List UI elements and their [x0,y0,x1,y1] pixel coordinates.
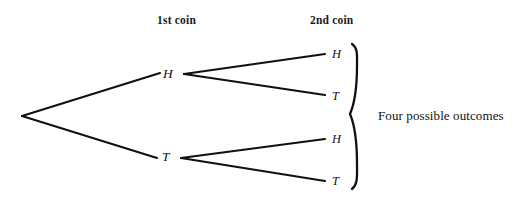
branch-h-to-hh [184,54,325,74]
branch-h-to-ht [184,74,325,95]
tree-diagram-svg [0,0,528,205]
leaf-label-outcome-3: H [332,132,341,147]
curly-brace-icon [350,44,357,189]
branch-root-to-h [22,73,160,116]
column-header-second-coin: 2nd coin [310,14,353,26]
leaf-label-outcome-4: T [332,174,339,189]
column-header-first-coin: 1st coin [157,14,196,26]
branch-t-to-th [181,139,325,158]
branch-t-to-tt [181,158,325,181]
node-label-first-coin-heads: H [163,66,173,82]
outcomes-annotation: Four possible outcomes [378,108,504,124]
node-label-first-coin-tails: T [162,149,170,165]
leaf-label-outcome-2: T [332,89,339,104]
leaf-label-outcome-1: H [332,47,341,62]
branch-root-to-t [22,116,157,158]
diagram-canvas: 1st coin 2nd coin H T H T H T Four possi… [0,0,528,205]
